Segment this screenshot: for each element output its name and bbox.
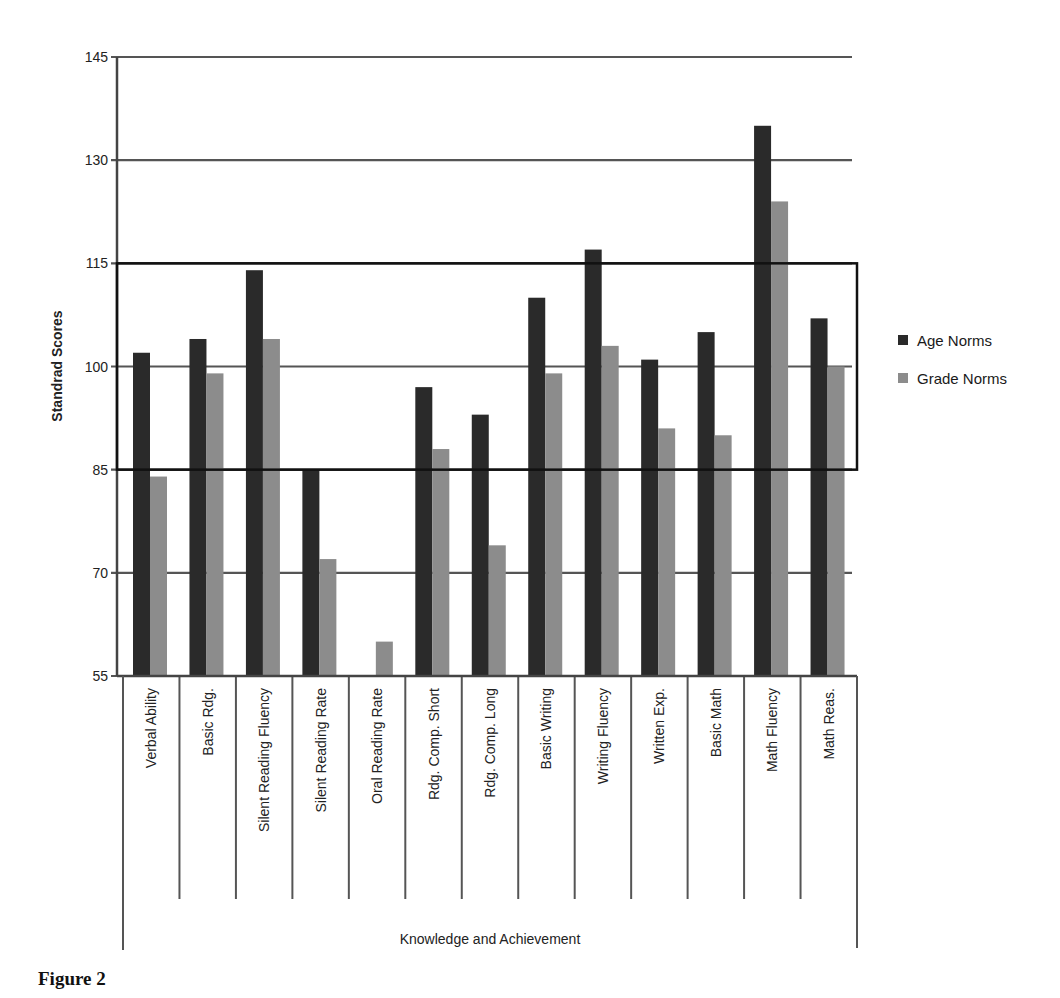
x-category-label: Silent Reading Rate [313, 688, 329, 813]
x-category-label: Basic Math [708, 688, 724, 757]
legend-item-grade-norms: Grade Norms [898, 368, 1007, 388]
bar-grade [602, 346, 619, 676]
bar-chart: 557085100115130145Standrad ScoresVerbal … [0, 0, 1060, 998]
x-category-label: Written Exp. [651, 688, 667, 764]
bar-age [811, 318, 828, 676]
bar-age [133, 353, 150, 676]
x-category-label: Basic Writing [538, 688, 554, 769]
legend-label-age: Age Norms [917, 332, 992, 349]
figure-caption: Figure 2 [38, 968, 106, 990]
legend-swatch-grade [898, 373, 908, 383]
bar-grade [489, 545, 506, 676]
bar-age [472, 415, 489, 676]
y-tick-label-130: 130 [85, 152, 109, 168]
bar-age [698, 332, 715, 676]
bar-age [641, 360, 658, 676]
bar-grade [319, 559, 336, 676]
bar-age [754, 126, 771, 676]
x-category-label: Writing Fluency [595, 688, 611, 784]
bar-grade [771, 201, 788, 676]
legend: Age Norms Grade Norms [898, 330, 1007, 406]
bar-grade [545, 373, 562, 676]
bar-age [585, 250, 602, 676]
bar-age [302, 470, 319, 676]
bar-age [415, 387, 432, 676]
bar-age [528, 298, 545, 676]
bar-grade [263, 339, 280, 676]
bar-grade [715, 435, 732, 676]
y-tick-label-55: 55 [92, 668, 108, 684]
x-category-label: Oral Reading Rate [369, 688, 385, 804]
legend-label-grade: Grade Norms [917, 370, 1007, 387]
y-tick-label-115: 115 [86, 255, 109, 271]
bar-grade [376, 642, 393, 676]
x-category-label: Rdg. Comp. Short [426, 688, 442, 800]
legend-swatch-age [898, 335, 908, 345]
x-category-label: Verbal Ability [143, 688, 159, 768]
bar-grade [432, 449, 449, 676]
x-category-label: Rdg. Comp. Long [482, 688, 498, 798]
bar-age [189, 339, 206, 676]
y-tick-label-145: 145 [85, 49, 109, 65]
x-category-label: Silent Reading Fluency [256, 688, 272, 832]
y-tick-label-70: 70 [92, 565, 108, 581]
y-axis-title: Standrad Scores [49, 310, 65, 421]
bar-age [246, 270, 263, 676]
x-category-label: Math Fluency [764, 688, 780, 772]
bar-grade [658, 428, 675, 676]
x-category-label: Math Reas. [821, 688, 837, 760]
y-tick-label-85: 85 [92, 462, 108, 478]
bar-grade [150, 477, 167, 676]
bar-grade [206, 373, 223, 676]
bar-grade [828, 367, 845, 677]
legend-item-age-norms: Age Norms [898, 330, 1007, 350]
x-category-label: Basic Rdg. [200, 688, 216, 756]
y-tick-label-100: 100 [85, 359, 109, 375]
x-axis-title: Knowledge and Achievement [400, 931, 581, 947]
